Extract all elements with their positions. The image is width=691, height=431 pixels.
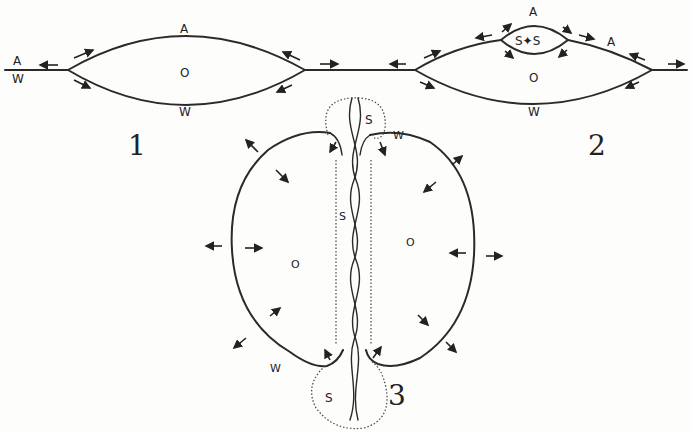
arrow-up-left-icon xyxy=(630,54,645,60)
arrow-down-left-icon xyxy=(559,50,567,57)
arrow-down-right-icon xyxy=(505,51,513,58)
label-o-left: O xyxy=(291,258,300,271)
arrow-right-icon xyxy=(579,35,594,39)
label-water-bottom: W xyxy=(179,105,191,119)
label-water-bottom: W xyxy=(528,105,540,119)
left-lens-top-curl xyxy=(330,133,342,155)
arrow-up-icon xyxy=(373,347,381,358)
label-water-left: W xyxy=(12,72,24,86)
bottom-surfactant-lobe xyxy=(312,362,387,429)
figure-number-1: 1 xyxy=(128,129,146,162)
upper-boundary-left xyxy=(415,40,501,70)
label-oil-center: O xyxy=(180,66,189,80)
arrow-up-right-icon xyxy=(424,51,440,58)
arrow-inward-icon xyxy=(270,308,280,316)
label-air-left: A xyxy=(13,54,22,68)
diagram-canvas: A W A O W 1 A S✦S A O W 2 xyxy=(0,0,691,431)
label-oil-center: O xyxy=(529,71,538,85)
label-s-top: S xyxy=(365,113,373,127)
figure-3: S W S O O W S 3 xyxy=(206,98,502,429)
arrow-outward-icon xyxy=(234,338,246,348)
arrow-outward-icon xyxy=(446,342,456,352)
label-air-right: A xyxy=(607,35,616,49)
figure-number-2: 2 xyxy=(588,129,606,162)
lens-upper-boundary xyxy=(68,36,305,70)
arrow-down-icon xyxy=(330,142,336,152)
arrow-outward-icon xyxy=(452,156,462,165)
right-lens-top-curl xyxy=(360,135,370,155)
figure-number-3: 3 xyxy=(388,379,406,412)
arrow-down-right-icon xyxy=(563,27,571,33)
label-air-top: A xyxy=(529,5,538,19)
arrow-inward-icon xyxy=(424,182,436,192)
arrow-left-icon xyxy=(476,35,492,38)
arrow-up-right-icon xyxy=(74,50,93,58)
arrow-down-right-icon xyxy=(420,82,434,88)
label-surfactant-lens: S✦S xyxy=(515,34,540,48)
arrow-outward-icon xyxy=(246,140,258,152)
arrow-inward-icon xyxy=(276,170,288,182)
label-s-bottom: S xyxy=(325,391,333,405)
arrow-down-left-icon xyxy=(277,85,292,92)
left-oil-lens-outline xyxy=(232,132,343,366)
diagram-svg: A W A O W 1 A S✦S A O W 2 xyxy=(0,0,691,431)
label-o-right: O xyxy=(406,236,415,249)
label-w-bottom: W xyxy=(270,362,281,375)
arrow-up-icon xyxy=(325,350,330,360)
top-surfactant-lobe xyxy=(326,98,386,138)
label-air-top: A xyxy=(180,22,189,36)
label-s-middle: S xyxy=(339,210,346,223)
label-w-top: W xyxy=(393,129,404,142)
right-oil-lens-outline xyxy=(366,133,474,366)
figure-2: A S✦S A O W 2 xyxy=(390,5,687,162)
arrow-down-icon xyxy=(380,142,385,155)
arrow-inward-icon xyxy=(418,315,428,325)
arrow-up-right-icon xyxy=(502,24,511,32)
